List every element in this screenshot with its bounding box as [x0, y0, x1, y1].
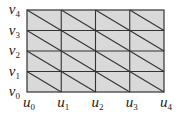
v-label-4: v4: [9, 1, 21, 19]
triangulated-grid-diagram: u0u1u2u3u4 v0v1v2v3v4: [0, 0, 182, 116]
u-label-0: u0: [23, 94, 36, 112]
u-label-1: u1: [57, 94, 69, 112]
v-label-2: v2: [9, 42, 20, 60]
v-label-3: v3: [9, 22, 21, 40]
u-axis-labels: u0u1u2u3u4: [23, 94, 173, 112]
u-label-4: u4: [160, 94, 173, 112]
v-axis-labels: v0v1v2v3v4: [9, 1, 21, 101]
u-label-3: u3: [126, 94, 139, 112]
u-label-2: u2: [92, 94, 104, 112]
v-label-0: v0: [9, 83, 21, 101]
v-label-1: v1: [9, 63, 20, 81]
